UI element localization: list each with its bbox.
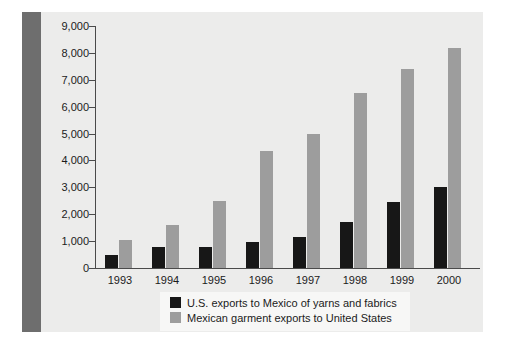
- y-axis-tick: [89, 268, 95, 269]
- bar-group: [194, 26, 241, 268]
- bar: [152, 247, 165, 269]
- bar: [354, 93, 367, 268]
- bar-group: [147, 26, 194, 268]
- y-axis-tick-label: 8,000: [35, 48, 89, 59]
- chart-legend: U.S. exports to Mexico of yarns and fabr…: [160, 292, 410, 331]
- chart-figure: 01,0002,0003,0004,0005,0006,0007,0008,00…: [0, 0, 506, 352]
- bar: [166, 225, 179, 268]
- y-axis-tick-label: 0: [35, 263, 89, 274]
- bar: [340, 222, 353, 268]
- bar: [387, 202, 400, 268]
- bar-group: [335, 26, 382, 268]
- y-axis-tick-label: 2,000: [35, 209, 89, 220]
- bar-group: [241, 26, 288, 268]
- bar-group: [288, 26, 335, 268]
- y-axis-tick-label: 1,000: [35, 236, 89, 247]
- bar-group: [100, 26, 147, 268]
- x-axis-tick-label: 1997: [285, 274, 331, 286]
- y-axis-tick-labels: 01,0002,0003,0004,0005,0006,0007,0008,00…: [30, 26, 89, 269]
- bar: [213, 201, 226, 268]
- legend-item: U.S. exports to Mexico of yarns and fabr…: [170, 295, 410, 310]
- y-axis-tick: [89, 160, 95, 161]
- bar: [307, 134, 320, 268]
- x-axis-tick-label: 1993: [97, 274, 143, 286]
- y-axis-tick: [89, 214, 95, 215]
- bar-group: [382, 26, 429, 268]
- bar: [448, 48, 461, 268]
- y-axis-tick-label: 5,000: [35, 129, 89, 140]
- bar: [401, 69, 414, 268]
- black-square-swatch-icon: [170, 297, 181, 308]
- x-axis-line: [95, 268, 480, 269]
- x-axis-tick-label: 1995: [191, 274, 237, 286]
- x-axis-tick-label: 2000: [426, 274, 472, 286]
- bar: [199, 247, 212, 269]
- y-axis-tick: [89, 107, 95, 108]
- y-axis-tick: [89, 241, 95, 242]
- legend-item-label: U.S. exports to Mexico of yarns and fabr…: [187, 297, 397, 309]
- x-axis-tick-label: 1999: [379, 274, 425, 286]
- y-axis-tick-label: 3,000: [35, 182, 89, 193]
- plot-area: 19931994199519961997199819992000: [95, 26, 480, 268]
- bar: [434, 187, 447, 268]
- gray-square-swatch-icon: [170, 312, 181, 323]
- x-axis-tick-label: 1998: [332, 274, 378, 286]
- bar: [119, 240, 132, 268]
- y-axis-tick-label: 7,000: [35, 75, 89, 86]
- x-axis-tick-label: 1996: [238, 274, 284, 286]
- legend-item-label: Mexican garment exports to United States: [187, 312, 392, 324]
- x-axis-tick-label: 1994: [144, 274, 190, 286]
- y-axis-tick: [89, 134, 95, 135]
- y-axis-tick-label: 4,000: [35, 155, 89, 166]
- y-axis-tick-label: 6,000: [35, 102, 89, 113]
- bar: [260, 151, 273, 268]
- y-axis-tick: [89, 26, 95, 27]
- bar: [293, 237, 306, 268]
- y-axis-tick: [89, 187, 95, 188]
- y-axis-line: [95, 26, 96, 269]
- y-axis-tick: [89, 53, 95, 54]
- bar: [105, 255, 118, 268]
- legend-item: Mexican garment exports to United States: [170, 310, 410, 325]
- y-axis-tick: [89, 80, 95, 81]
- bar: [246, 242, 259, 268]
- bar-group: [429, 26, 476, 268]
- y-axis-tick-label: 9,000: [35, 21, 89, 32]
